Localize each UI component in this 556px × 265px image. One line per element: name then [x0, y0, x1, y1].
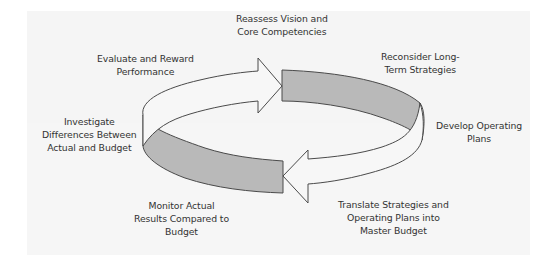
- step-develop-plans: Develop Operating Plans: [436, 119, 522, 145]
- right-band: [282, 70, 422, 140]
- step-investigate-differences: Investigate Differences Between Actual a…: [42, 115, 137, 154]
- step-evaluate-reward: Evaluate and Reward Performance: [97, 52, 194, 78]
- step-reconsider-strategies: Reconsider Long- Term Strategies: [381, 50, 460, 76]
- left-band: [143, 115, 283, 193]
- step-reassess-vision: Reassess Vision and Core Competencies: [236, 12, 328, 38]
- step-translate-master-budget: Translate Strategies and Operating Plans…: [338, 198, 449, 237]
- step-monitor-results: Monitor Actual Results Compared to Budge…: [134, 199, 229, 238]
